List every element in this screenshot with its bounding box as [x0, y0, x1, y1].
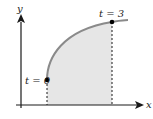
y-axis-arrow-icon	[17, 14, 25, 23]
label-t0: t = 0	[25, 75, 51, 86]
x-axis-label: x	[146, 99, 152, 110]
parametric-area-diagram: y x t = 0 t = 3	[0, 0, 153, 119]
y-axis-label: y	[16, 3, 23, 14]
label-t3: t = 3	[99, 8, 124, 19]
point-t3	[110, 20, 115, 25]
shaded-area	[47, 22, 112, 105]
